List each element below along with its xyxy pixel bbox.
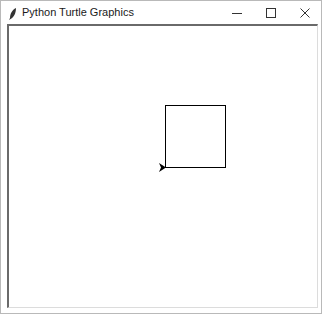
- turtle-window: Python Turtle Graphics: [0, 0, 322, 314]
- drawing-layer: [1, 1, 323, 315]
- drawn-square: [166, 106, 226, 168]
- turtle-arrow-icon: [159, 163, 166, 172]
